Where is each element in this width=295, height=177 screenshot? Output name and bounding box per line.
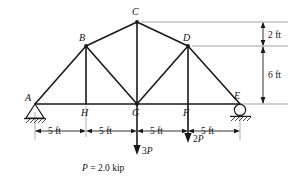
member-top-chord-D-E xyxy=(188,46,240,104)
dim-label-6ft: 6 ft xyxy=(268,70,281,80)
caption-load-value: P = 2.0 kip xyxy=(81,163,125,173)
node-label-D: D xyxy=(182,32,191,43)
truss-diagram: A H G F E B C D 2 ft 6 ft xyxy=(0,0,295,177)
member-top-chord-A-B xyxy=(35,46,86,104)
joint-D xyxy=(186,44,190,48)
load-labels: 3P 2P xyxy=(142,134,204,156)
dim-label-2ft: 2 ft xyxy=(268,30,281,40)
hatching-A xyxy=(26,119,46,123)
load-label-G: 3P xyxy=(142,146,153,156)
node-label-H: H xyxy=(80,107,89,118)
joint-B xyxy=(84,44,88,48)
node-label-A: A xyxy=(24,92,32,103)
joint-C xyxy=(135,20,139,24)
roller-support-E xyxy=(230,104,251,121)
load-arrowhead-G xyxy=(133,145,140,155)
node-labels: A H G F E B C D xyxy=(24,6,240,118)
arrowhead-2ft-top xyxy=(261,22,266,28)
dim-label-span-A-H: 5 ft xyxy=(48,126,61,136)
arrowhead-2ft-bottom xyxy=(261,40,266,46)
vertical-dimension-labels: 2 ft 6 ft xyxy=(268,30,281,80)
member-diagonal-B-G xyxy=(86,46,137,104)
reference-lines xyxy=(35,22,288,140)
member-diagonal-D-G xyxy=(137,46,188,104)
node-label-E: E xyxy=(233,90,240,101)
load-label-G-symbol: P xyxy=(146,146,153,156)
dim-label-span-G-F: 5 ft xyxy=(150,126,163,136)
caption-value: 2.0 xyxy=(98,163,110,173)
load-label-F-symbol: P xyxy=(197,134,204,144)
caption-unit: kip xyxy=(112,163,124,173)
node-label-B: B xyxy=(79,32,85,43)
arrowhead-6ft-bottom xyxy=(261,97,266,104)
hatching-E xyxy=(231,117,251,121)
load-label-F: 2P xyxy=(193,134,204,144)
node-label-C: C xyxy=(132,6,139,17)
member-top-chord-B-C xyxy=(86,22,137,46)
load-arrowhead-F xyxy=(184,133,191,143)
member-top-chord-C-D xyxy=(137,22,188,46)
vertical-dimensions xyxy=(261,22,266,104)
arrowhead-6ft-top xyxy=(261,46,266,53)
truss-members xyxy=(35,22,240,104)
node-label-G: G xyxy=(132,107,139,118)
dim-label-span-H-G: 5 ft xyxy=(99,126,112,136)
